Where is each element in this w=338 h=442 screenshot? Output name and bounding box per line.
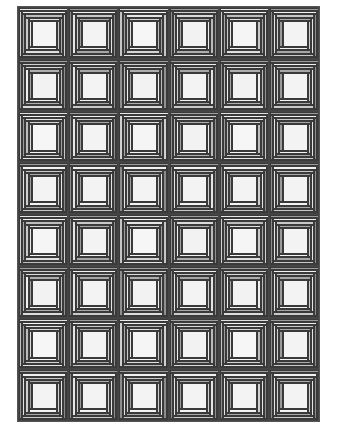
quilt-log [110, 121, 113, 157]
quilt-log [311, 225, 314, 261]
quilt-log [179, 409, 207, 412]
quilt-log [126, 257, 161, 260]
quilt-log [107, 124, 110, 154]
quilt-log [273, 364, 314, 367]
quilt-log [79, 99, 107, 102]
quilt-log [314, 273, 317, 315]
quilt-block-center [82, 228, 107, 254]
quilt-block-center [132, 21, 157, 47]
quilt-block-center [82, 176, 107, 202]
quilt-log [160, 18, 163, 54]
quilt-log [308, 228, 311, 258]
quilt-log [22, 364, 63, 367]
quilt-log [107, 383, 110, 413]
quilt-log [308, 331, 311, 361]
quilt-log [210, 225, 213, 261]
quilt-log [157, 383, 160, 413]
quilt-log [60, 18, 63, 54]
quilt-log [69, 419, 116, 421]
quilt-log [25, 413, 60, 416]
quilt-log [311, 121, 314, 157]
quilt-log [163, 170, 166, 212]
quilt-log [123, 312, 164, 315]
quilt-log [76, 102, 111, 105]
quilt-log [129, 151, 157, 154]
quilt-block [68, 111, 118, 163]
quilt-log [223, 261, 264, 264]
quilt-block [219, 214, 269, 266]
quilt-log [160, 173, 163, 209]
quilt-log [214, 14, 217, 56]
quilt-block-center [283, 73, 308, 99]
quilt-log [264, 273, 267, 315]
quilt-block-center [132, 124, 157, 150]
quilt-log [129, 306, 157, 309]
quilt-log [63, 273, 66, 315]
quilt-log [257, 73, 260, 103]
quilt-log [25, 257, 60, 260]
quilt-block-center [283, 280, 308, 306]
quilt-log [210, 121, 213, 157]
quilt-log [214, 273, 217, 315]
quilt-block-center [232, 228, 257, 254]
quilt-log [279, 306, 307, 309]
quilt-log [63, 66, 66, 108]
quilt-log [129, 358, 157, 361]
quilt-block-center [32, 228, 57, 254]
quilt-log [223, 312, 264, 315]
quilt-block-center [32, 383, 57, 409]
quilt-log [264, 221, 267, 263]
quilt-log [264, 325, 267, 367]
quilt-log [279, 358, 307, 361]
quilt-log [129, 47, 157, 50]
quilt-log [157, 331, 160, 361]
quilt-log [126, 413, 161, 416]
quilt-log [317, 63, 319, 111]
quilt-log [79, 358, 107, 361]
quilt-block-center [32, 331, 57, 357]
quilt-log [113, 66, 116, 108]
quilt-log [308, 176, 311, 206]
quilt-block [118, 318, 168, 370]
quilt-log [163, 118, 166, 160]
quilt-log [279, 99, 307, 102]
quilt-log [107, 73, 110, 103]
quilt-log [113, 170, 116, 212]
quilt-log [25, 154, 60, 157]
quilt-log [157, 228, 160, 258]
quilt-log [176, 206, 211, 209]
quilt-log [157, 176, 160, 206]
quilt-log [226, 309, 261, 312]
quilt-log [317, 218, 319, 266]
quilt-log [264, 118, 267, 160]
quilt-log [264, 170, 267, 212]
quilt-log [317, 115, 319, 163]
quilt-log [176, 257, 211, 260]
quilt-log [276, 257, 311, 260]
quilt-log [63, 14, 66, 56]
quilt-log [123, 105, 164, 108]
quilt-log [314, 377, 317, 419]
quilt-block-center [232, 383, 257, 409]
quilt-block-center [82, 383, 107, 409]
quilt-log [317, 166, 319, 214]
quilt-log [276, 50, 311, 53]
quilt-log [60, 380, 63, 416]
quilt-log [60, 173, 63, 209]
quilt-log [79, 151, 107, 154]
quilt-log [226, 361, 261, 364]
quilt-block [118, 7, 168, 59]
quilt-block-center [232, 73, 257, 99]
quilt-log [157, 124, 160, 154]
quilt-block [269, 111, 319, 163]
quilt-log [173, 364, 214, 367]
quilt-log [113, 325, 116, 367]
quilt-block-center [232, 176, 257, 202]
quilt-block-center [132, 280, 157, 306]
quilt-log [270, 419, 317, 421]
quilt-log [113, 14, 116, 56]
quilt-log [229, 151, 257, 154]
quilt-block [18, 111, 68, 163]
quilt-log [210, 380, 213, 416]
quilt-log [261, 328, 264, 364]
